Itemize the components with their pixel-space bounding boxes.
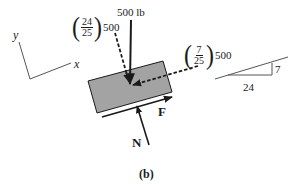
normal-component-label: ( 24 25 ) 500	[72, 15, 120, 39]
close-paren: )	[206, 42, 214, 68]
normal-force-label: N	[132, 136, 141, 149]
weight-label: 500 lb	[117, 7, 145, 18]
figure-caption: (b)	[139, 168, 154, 180]
y-axis-label: y	[13, 29, 18, 41]
diagram-graphics	[0, 0, 305, 188]
slope-rise-label: 7	[275, 64, 281, 75]
y-axis-line	[19, 42, 30, 79]
weight-arrow	[130, 20, 131, 84]
coordinate-axes	[19, 42, 71, 79]
x-axis-label: x	[74, 58, 79, 70]
free-body-diagram: y x 500 lb ( 24 25 ) 500 ( 7 25 ) 500 F …	[0, 0, 305, 188]
close-paren: )	[94, 14, 102, 40]
parallel-component-label: ( 7 25 ) 500	[184, 43, 232, 67]
slope-run-label: 24	[243, 82, 254, 93]
friction-label: F	[158, 105, 166, 118]
open-paren: (	[72, 14, 80, 40]
x-axis-line	[30, 63, 71, 79]
fraction: 24 25	[81, 17, 93, 38]
open-paren: (	[184, 42, 192, 68]
fraction: 7 25	[193, 45, 205, 66]
